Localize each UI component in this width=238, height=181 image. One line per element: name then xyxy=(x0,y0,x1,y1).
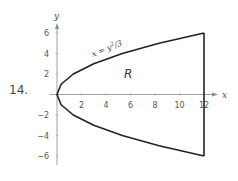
x-tick-label: 6 xyxy=(128,101,133,110)
x-axis-label: x xyxy=(222,90,227,100)
x-tick-label: 2 xyxy=(79,101,84,110)
region-label: R xyxy=(124,67,132,81)
x-tick-label: 4 xyxy=(103,101,108,110)
x-tick-label: 8 xyxy=(152,101,157,110)
y-tick-label: 2 xyxy=(44,70,49,79)
y-tick-label: −6 xyxy=(37,152,49,161)
y-tick-label: 6 xyxy=(44,29,49,38)
y-axis-arrow-icon xyxy=(55,23,59,29)
plot: y x 2 4 6 8 10 12 6 4 2 −2 −4 −6 x = y2/… xyxy=(0,0,238,181)
y-tick-label: −2 xyxy=(37,111,49,120)
x-axis-arrow-icon xyxy=(212,93,218,97)
y-axis-label: y xyxy=(53,11,60,21)
y-tick-label: 4 xyxy=(44,50,49,59)
y-ticks: 6 4 2 −2 −4 −6 xyxy=(37,29,58,161)
x-tick-label: 10 xyxy=(174,101,184,110)
x-ticks: 2 4 6 8 10 12 xyxy=(79,93,209,110)
y-tick-label: −4 xyxy=(37,132,49,141)
